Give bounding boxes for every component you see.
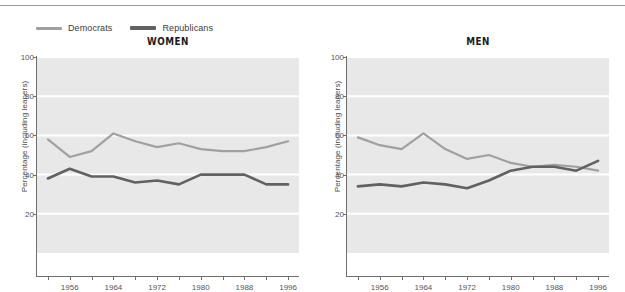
legend-swatch-democrats-icon [36,27,62,30]
y-tick-mark-women-80 [33,96,37,97]
x-tick-label-men-1956: 1956 [371,283,389,292]
series-line-men-democrats [358,133,598,170]
x-tick-mark-men-1984 [533,276,534,280]
y-tick-mark-men-80 [343,96,347,97]
x-tick-label-women-1980: 1980 [192,283,210,292]
x-tick-mark-women-1976 [179,276,180,280]
y-tick-label-men-100: 100 [331,53,344,62]
chart-panel-men: MEN Percentage (including leaners) 20406… [316,36,616,284]
x-tick-mark-women-1992 [266,276,267,280]
x-tick-mark-women-1956 [70,276,71,280]
y-tick-label-women-100: 100 [21,53,34,62]
x-tick-mark-men-1988 [554,276,555,280]
x-tick-label-men-1988: 1988 [546,283,564,292]
x-tick-label-women-1996: 1996 [279,283,297,292]
legend-item-democrats: Democrats [36,23,112,33]
x-tick-label-women-1956: 1956 [61,283,79,292]
series-line-women-democrats [48,133,288,157]
x-tick-label-men-1980: 1980 [502,283,520,292]
x-tick-mark-men-1952 [358,276,359,280]
x-tick-mark-men-1964 [423,276,424,280]
x-tick-label-men-1996: 1996 [589,283,607,292]
legend-swatch-republicans-icon [130,26,156,30]
chart-title-women: WOMEN [47,36,290,47]
x-tick-mark-women-1964 [113,276,114,280]
x-tick-mark-men-1996 [598,276,599,280]
chart-title-men: MEN [357,36,600,47]
x-tick-label-men-1972: 1972 [458,283,476,292]
x-axis-line-men [346,276,609,277]
x-tick-mark-men-1992 [576,276,577,280]
x-tick-mark-women-1980 [201,276,202,280]
y-tick-mark-men-40 [343,175,347,176]
y-tick-mark-women-40 [33,175,37,176]
x-axis-line-women [36,276,299,277]
y-tick-mark-women-100 [33,57,37,58]
plot-area-men: 20406080100195619641972198019881996 [347,57,609,253]
legend-label-democrats: Democrats [68,23,112,33]
x-tick-mark-men-1956 [380,276,381,280]
top-divider [0,5,625,6]
x-tick-mark-women-1968 [135,276,136,280]
x-tick-mark-men-1972 [467,276,468,280]
chart-canvas-men [347,57,609,253]
y-tick-mark-men-20 [343,214,347,215]
chart-panel-women: WOMEN Percentage (including leaners) 204… [6,36,306,284]
plot-area-women: 20406080100195619641972198019881996 [37,57,299,253]
y-tick-mark-women-60 [33,135,37,136]
y-tick-mark-men-100 [343,57,347,58]
x-tick-mark-men-1976 [489,276,490,280]
x-tick-label-women-1988: 1988 [236,283,254,292]
legend-label-republicans: Republicans [162,23,213,33]
x-tick-mark-men-1960 [402,276,403,280]
x-tick-mark-women-1984 [223,276,224,280]
x-tick-mark-women-1960 [92,276,93,280]
x-tick-mark-women-1988 [244,276,245,280]
x-tick-mark-men-1968 [445,276,446,280]
legend-item-republicans: Republicans [130,23,213,33]
y-tick-mark-men-60 [343,135,347,136]
chart-canvas-women [37,57,299,253]
y-tick-mark-women-20 [33,214,37,215]
x-tick-label-women-1964: 1964 [105,283,123,292]
x-tick-mark-men-1980 [511,276,512,280]
chart-legend: Democrats Republicans [36,21,213,35]
series-line-women-republicans [48,169,288,185]
x-tick-mark-women-1972 [157,276,158,280]
x-tick-label-women-1972: 1972 [148,283,166,292]
x-tick-mark-women-1996 [288,276,289,280]
x-tick-mark-women-1952 [48,276,49,280]
x-tick-label-men-1964: 1964 [415,283,433,292]
